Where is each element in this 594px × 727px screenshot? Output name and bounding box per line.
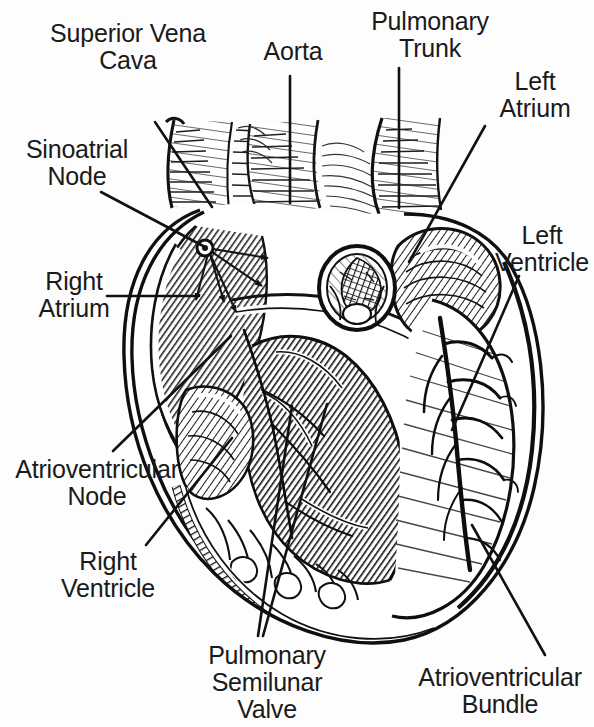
pulmonary-semilunar-valve (319, 246, 395, 330)
label-atrioventricular-node: Atrioventricular Node (8, 456, 186, 510)
label-superior-vena-cava: Superior Vena Cava (46, 20, 210, 74)
pulmonary-trunk (372, 118, 441, 219)
label-atrioventricular-bundle: Atrioventricular Bundle (414, 664, 586, 718)
heart-body (124, 204, 543, 649)
label-pulmonary-trunk: Pulmonary Trunk (368, 8, 492, 62)
label-right-ventricle: Right Ventricle (58, 548, 158, 602)
heart-conduction-diagram: Superior Vena Cava Aorta Pulmonary Trunk… (0, 0, 594, 727)
label-left-ventricle: Left Ventricle (492, 222, 592, 276)
label-left-atrium: Left Atrium (487, 68, 583, 122)
label-right-atrium: Right Atrium (28, 268, 120, 322)
label-sinoatrial-node: Sinoatrial Node (22, 136, 132, 190)
label-aorta: Aorta (258, 38, 328, 65)
aorta (248, 120, 380, 218)
label-pulmonary-semilunar-valve: Pulmonary Semilunar Valve (196, 642, 338, 723)
